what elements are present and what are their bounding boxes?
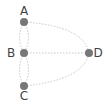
edge-a-d	[24, 22, 89, 53]
label-c: C	[20, 89, 28, 103]
edges	[20, 22, 90, 86]
node-b	[20, 49, 28, 57]
node-a	[20, 18, 28, 26]
label-a: A	[20, 4, 29, 18]
edge-a-b-right	[24, 22, 29, 53]
edge-c-d	[24, 53, 89, 86]
node-d	[85, 49, 93, 57]
graph-diagram: A B C D	[0, 0, 109, 105]
edge-a-b-left	[20, 22, 25, 53]
label-d: D	[93, 46, 102, 60]
nodes	[20, 18, 93, 90]
label-b: B	[7, 46, 15, 60]
edge-b-c-left	[20, 53, 25, 86]
edge-b-c-right	[24, 53, 29, 86]
